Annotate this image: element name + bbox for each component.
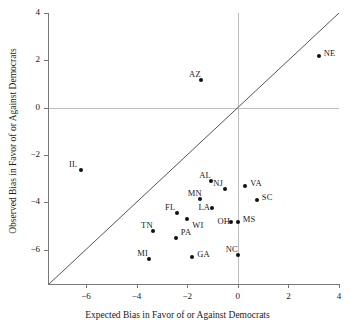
data-point-label-fl: FL	[165, 202, 175, 212]
data-point-label-la: LA	[198, 202, 210, 212]
x-tick-mark	[288, 284, 289, 288]
x-tick-label: −4	[124, 291, 150, 301]
data-point-label-tn: TN	[141, 220, 153, 230]
x-tick-label: 0	[225, 291, 251, 301]
identity-diagonal-line	[48, 13, 339, 285]
data-point-label-ga: GA	[197, 249, 210, 259]
y-axis-line	[48, 13, 49, 285]
data-point-label-ne: NE	[324, 48, 336, 58]
data-point-label-mn: MN	[188, 188, 202, 198]
x-tick-label: −6	[73, 291, 99, 301]
data-point-label-az: AZ	[189, 69, 201, 79]
x-tick-mark	[187, 284, 188, 288]
data-point-label-al: AL	[199, 170, 211, 180]
data-point-label-wi: WI	[192, 220, 203, 230]
data-point-ga	[190, 255, 194, 259]
data-point-label-va: VA	[250, 178, 262, 188]
x-axis-title: Expected Bias in Favor of or Against Dem…	[0, 310, 355, 320]
data-point-label-nc: NC	[226, 244, 238, 254]
x-tick-label: 4	[326, 291, 352, 301]
y-tick-mark	[44, 250, 48, 251]
data-point-fl	[175, 211, 179, 215]
x-tick-mark	[86, 284, 87, 288]
data-point-label-sc: SC	[262, 192, 273, 202]
x-tick-mark	[137, 284, 138, 288]
data-point-ne	[317, 54, 321, 58]
x-tick-label: 2	[275, 291, 301, 301]
x-tick-mark	[238, 284, 239, 288]
data-point-label-mi: MI	[137, 248, 148, 258]
plot-area: −6−4−2024 −6−4−2024 NEAZILALVANJSCMNLAFL…	[48, 13, 339, 285]
x-axis-line	[48, 284, 339, 285]
data-point-label-ms: MS	[243, 214, 256, 224]
data-point-pa	[174, 236, 178, 240]
data-point-label-nj: NJ	[213, 178, 223, 188]
y-tick-mark	[44, 155, 48, 156]
y-tick-mark	[44, 13, 48, 14]
data-point-wi	[185, 217, 189, 221]
scatter-plot-figure: −6−4−2024 −6−4−2024 NEAZILALVANJSCMNLAFL…	[0, 0, 355, 333]
x-tick-mark	[339, 284, 340, 288]
data-point-label-oh: OH	[217, 216, 230, 226]
y-tick-mark	[44, 60, 48, 61]
y-axis-title: Observed Bias in Favor of or Against Dem…	[8, 16, 18, 266]
x-tick-label: −2	[174, 291, 200, 301]
data-point-label-il: IL	[69, 159, 77, 169]
data-point-sc	[255, 198, 259, 202]
y-tick-mark	[44, 202, 48, 203]
data-point-label-pa: PA	[181, 227, 192, 237]
y-tick-mark	[44, 108, 48, 109]
